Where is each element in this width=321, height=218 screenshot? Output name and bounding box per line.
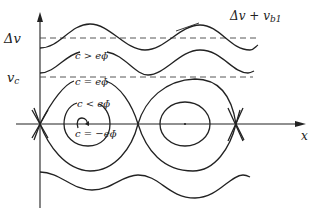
label-top-annotation: Δv + vb1 — [229, 9, 281, 24]
label-v-c: vc — [7, 70, 19, 86]
curve-top-untrapped — [40, 24, 258, 50]
o-point-loop — [77, 118, 87, 128]
o-point-dot — [87, 123, 89, 125]
curve-separatrix-lower-left — [34, 108, 138, 171]
phase-space-diagram: Δv vc Δv + vb1 c > eϕ̄ c = eϕ̄ c < eϕ̄ c… — [0, 0, 321, 218]
label-c-equal: c = eϕ̄ — [75, 76, 108, 87]
label-x-axis: x — [301, 129, 308, 143]
curve-bottom-untrapped — [40, 172, 250, 198]
label-c-greater: c > eϕ̄ — [75, 50, 108, 61]
curve-c-greater — [40, 50, 254, 75]
annotation-pointer — [176, 23, 199, 31]
x-axis — [16, 121, 306, 127]
label-delta-v: Δv — [3, 31, 21, 46]
label-c-less: c < eϕ̄ — [77, 98, 110, 109]
label-c-negative: c = −eϕ̄ — [75, 128, 117, 139]
o-point-dot-right — [184, 123, 186, 125]
y-axis — [37, 12, 43, 208]
